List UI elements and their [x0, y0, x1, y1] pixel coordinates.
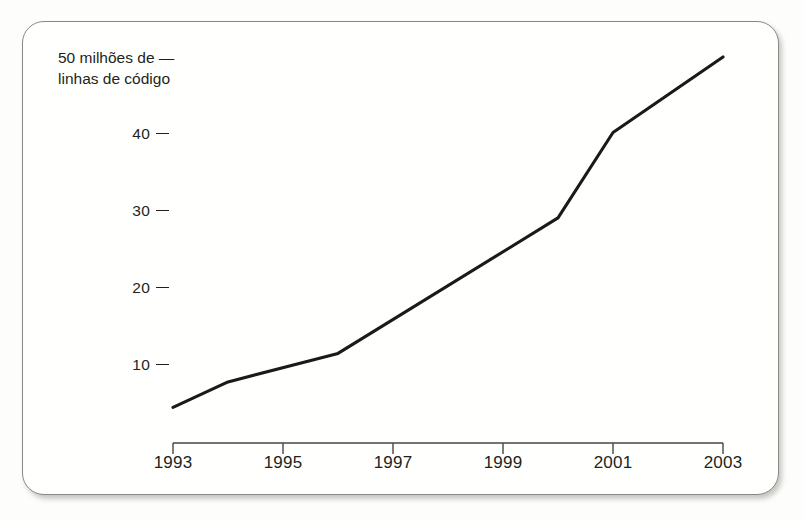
data-series-line — [173, 57, 723, 407]
x-axis-tick-group — [173, 443, 723, 454]
x-axis-rule — [173, 443, 723, 454]
line-chart-plot — [0, 0, 804, 519]
figure-root: 50 milhões de — linhas de código 40 30 2… — [0, 0, 804, 519]
